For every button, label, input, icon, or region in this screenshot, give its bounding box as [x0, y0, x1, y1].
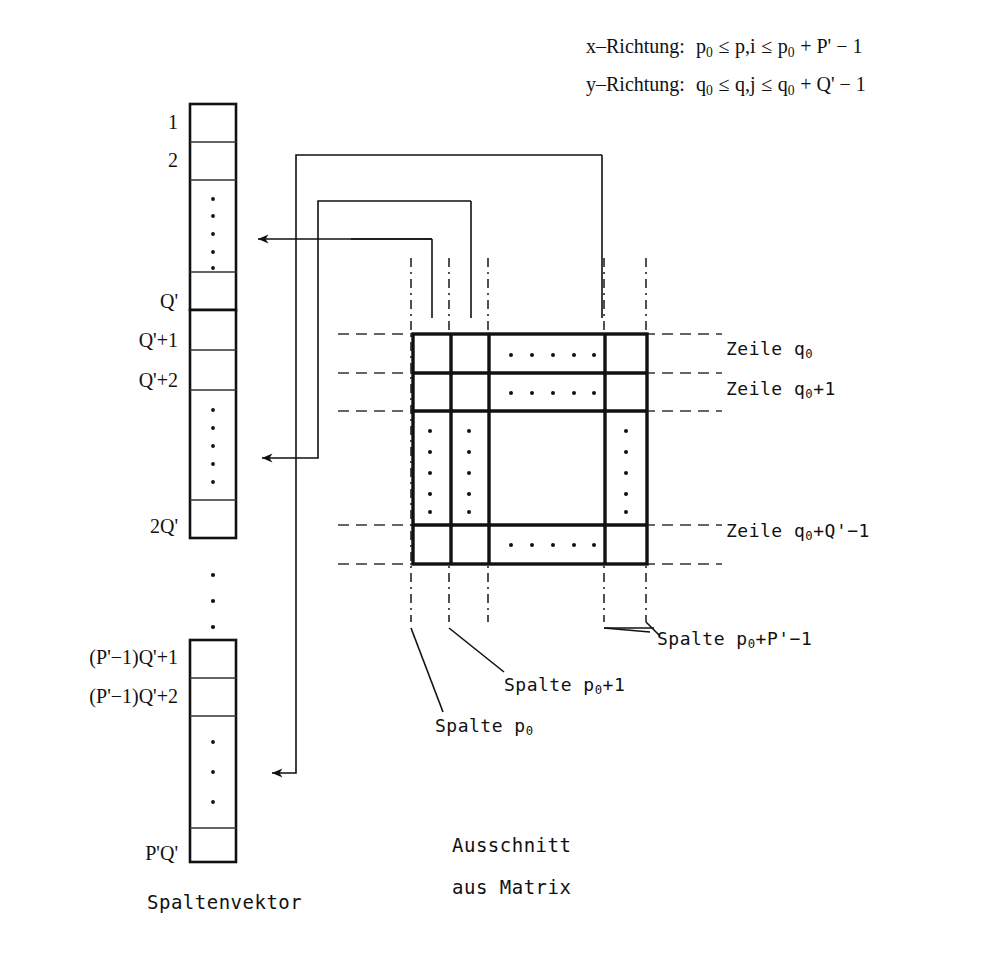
- connector-arrow-bottom: [272, 520, 296, 773]
- vector-block-bottom: [190, 640, 236, 862]
- vector-block-middle: [190, 310, 236, 538]
- column-label-leaders: [411, 628, 654, 712]
- connector-drops: [432, 155, 602, 318]
- column-label-leader-last: [646, 622, 660, 636]
- vector-block-top: [190, 104, 236, 310]
- figure-canvas: x–Richtung:p0≤p,i≤p0+ P' − 1 y–Richtung:…: [0, 0, 1006, 967]
- vector-gap-dots: [211, 573, 215, 629]
- column-vector-graphic: [0, 0, 1006, 967]
